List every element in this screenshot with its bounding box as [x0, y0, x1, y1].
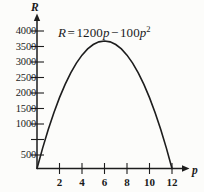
xtick-label-8: 8	[117, 177, 137, 188]
xtick-label-2: 2	[50, 177, 70, 188]
y-axis-label: R	[31, 2, 39, 14]
revenue-parabola-figure: 4000 3500 3000 2500 2000 1500 1000 500 2…	[0, 0, 204, 192]
equation-lhs: R	[58, 25, 66, 40]
equation-exponent: 2	[146, 24, 150, 34]
xtick-label-4: 4	[72, 177, 92, 188]
xtick-label-6: 6	[95, 177, 115, 188]
equation-linear-variable: p	[103, 25, 110, 40]
equation-square-coefficient: 100	[120, 25, 140, 40]
xtick-label-10: 10	[140, 177, 160, 188]
ytick-label-500: 500	[2, 150, 36, 161]
ytick-label-4000: 4000	[2, 26, 36, 37]
x-axis-arrowhead	[182, 165, 190, 171]
parabola-curve	[37, 41, 172, 169]
x-axis-label: p	[192, 165, 198, 177]
ytick-label-1000: 1000	[2, 119, 36, 130]
ytick-label-2000: 2000	[2, 88, 36, 99]
ytick-label-2500: 2500	[2, 73, 36, 84]
ytick-label-3000: 3000	[2, 57, 36, 68]
equation-annotation: R=1200p−100p2	[58, 26, 151, 39]
xtick-label-12: 12	[162, 177, 182, 188]
ytick-label-1500: 1500	[2, 104, 36, 115]
ytick-label-3500: 3500	[2, 42, 36, 53]
equation-linear-coefficient: 1200	[76, 25, 102, 40]
equation-equals: =	[66, 25, 76, 40]
y-axis-arrowhead	[34, 14, 40, 22]
equation-minus-sign: −	[110, 25, 120, 40]
